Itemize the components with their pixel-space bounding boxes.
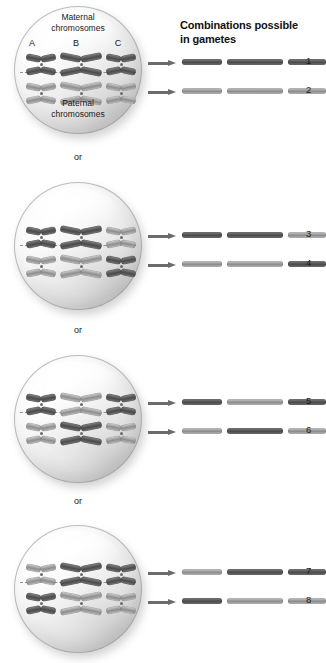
maternal-chromosomes-label: Maternalchromosomes (18, 12, 138, 33)
chromosome-C-paternal-cell-4 (106, 595, 136, 612)
chromatid-arm-tl (26, 256, 42, 265)
gamete-arrow-8 (148, 599, 176, 606)
chromatid-arm-tl (106, 423, 122, 432)
gamete-7 (182, 568, 326, 576)
or-separator-label: or (74, 325, 82, 335)
chromosome-A-maternal-cell-3 (26, 396, 56, 413)
arrow-head-icon (168, 60, 176, 66)
gamete-8 (182, 597, 326, 605)
chromosome-row-bottom-cell-2 (26, 258, 136, 275)
centromere-icon (80, 265, 83, 268)
arrow-shaft (148, 62, 169, 65)
gamete-1 (182, 58, 326, 66)
centromere-icon (120, 432, 123, 435)
gamete-arrow-2 (148, 89, 176, 96)
centromere-icon (120, 403, 123, 406)
chromatid-arm-tl (26, 83, 42, 92)
paternal-label-line1: Paternal (18, 98, 138, 109)
arrow-head-icon (168, 262, 176, 268)
chromosome-C-maternal-cell-1 (106, 56, 136, 73)
chromatid-arm-tr (120, 256, 136, 265)
figure-title-line1: Combinations possible (180, 19, 298, 31)
chromosome-A-paternal-cell-3 (26, 425, 56, 442)
gamete-number-6: 6 (306, 425, 311, 435)
maternal-label-line2: chromosomes (18, 23, 138, 34)
arrow-shaft (148, 235, 169, 238)
arrow-shaft (148, 91, 169, 94)
maternal-label-line1: Maternal (18, 12, 138, 23)
paternal-chromosomes-label: Paternalchromosomes (18, 98, 138, 119)
chromatid-arm-tr (120, 423, 136, 432)
chromosome-B-paternal-cell-4 (60, 595, 102, 612)
centromere-icon (120, 573, 123, 576)
chromosome-A-maternal-cell-1 (26, 56, 56, 73)
chromosome-C-maternal-cell-4 (106, 566, 136, 583)
gamete-arrow-5 (148, 400, 176, 407)
or-separator-1: or (0, 152, 324, 162)
arrow-head-icon (168, 89, 176, 95)
cell-sphere-4 (14, 525, 142, 653)
chromatid-arm-tr (40, 227, 56, 236)
chromatid-arm-tr (120, 227, 136, 236)
chromosome-B-maternal-cell-1 (60, 56, 102, 73)
chromosome-A-maternal-cell-4 (26, 595, 56, 612)
centromere-icon (120, 236, 123, 239)
or-separator-3: or (0, 496, 324, 506)
or-separator-label: or (74, 496, 82, 506)
arrow-head-icon (168, 233, 176, 239)
gamete-number-4: 4 (306, 258, 311, 268)
arrow-head-icon (168, 429, 176, 435)
chromosome-row-bottom-cell-4 (26, 595, 136, 612)
chromosome-label-B: B (70, 38, 82, 48)
chromatid-arm-tr (40, 564, 56, 573)
centromere-icon (80, 92, 83, 95)
centromere-icon (40, 432, 43, 435)
gamete-arrow-7 (148, 570, 176, 577)
chromatid-arm-tl (106, 593, 122, 602)
centromere-icon (80, 573, 83, 576)
chromatid-arm-tl (26, 227, 42, 236)
gamete-arrow-6 (148, 429, 176, 436)
chromatid-arm-tl (106, 394, 122, 403)
chromatid-arm-tl (26, 564, 42, 573)
arrow-head-icon (168, 570, 176, 576)
centromere-icon (80, 403, 83, 406)
centromere-icon (80, 432, 83, 435)
centromere-icon (40, 403, 43, 406)
arrow-shaft (148, 402, 169, 405)
chromatid-arm-tl (26, 423, 42, 432)
chromatid-arm-tl (106, 54, 122, 63)
gamete-8-chromosome-A-maternal (182, 598, 222, 604)
chromosome-row-top-cell-4 (26, 566, 136, 583)
gamete-3-chromosome-A-maternal (182, 232, 222, 238)
gamete-5-chromosome-A-maternal (182, 399, 222, 405)
chromatid-arm-tr (120, 593, 136, 602)
chromosome-A-maternal-cell-2 (26, 229, 56, 246)
chromosome-B-paternal-cell-3 (60, 396, 102, 413)
gamete-3 (182, 231, 326, 239)
cell-sphere-3 (14, 355, 142, 483)
gamete-2-chromosome-A-paternal (182, 88, 222, 94)
centromere-icon (40, 63, 43, 66)
chromosome-B-maternal-cell-4 (60, 566, 102, 583)
gamete-arrow-1 (148, 60, 176, 67)
arrow-head-icon (168, 400, 176, 406)
chromatid-arm-tl (26, 54, 42, 63)
gamete-number-1: 1 (306, 56, 311, 66)
chromosome-row-top-cell-2 (26, 229, 136, 246)
arrow-shaft (148, 572, 169, 575)
gamete-6-chromosome-B-maternal (227, 428, 283, 434)
chromosome-C-paternal-cell-3 (106, 425, 136, 442)
chromosome-row-top-cell-3 (26, 396, 136, 413)
chromatid-arm-tr (40, 423, 56, 432)
centromere-icon (40, 573, 43, 576)
chromosome-C-maternal-cell-2 (106, 258, 136, 275)
centromere-icon (80, 602, 83, 605)
centromere-icon (120, 63, 123, 66)
gamete-4 (182, 260, 326, 268)
chromosome-A-paternal-cell-4 (26, 566, 56, 583)
chromosome-label-A: A (26, 38, 38, 48)
gamete-number-7: 7 (306, 566, 311, 576)
gamete-6-chromosome-A-paternal (182, 428, 222, 434)
centromere-icon (80, 63, 83, 66)
